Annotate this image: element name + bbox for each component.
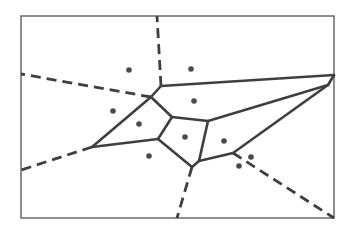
site-point bbox=[236, 163, 242, 169]
site-point bbox=[191, 98, 197, 104]
voronoi-edge bbox=[151, 86, 161, 97]
voronoi-edge bbox=[172, 117, 208, 121]
site-point bbox=[146, 153, 152, 159]
voronoi-edge bbox=[233, 85, 328, 153]
voronoi-ray bbox=[157, 16, 161, 86]
site-point bbox=[248, 154, 254, 160]
voronoi-ray bbox=[21, 74, 151, 97]
site-point bbox=[110, 108, 116, 114]
site-point bbox=[221, 138, 227, 144]
voronoi-diagram bbox=[0, 0, 362, 238]
voronoi-edge bbox=[192, 161, 199, 167]
site-point bbox=[182, 134, 188, 140]
voronoi-edge bbox=[158, 117, 172, 139]
voronoi-edge bbox=[199, 153, 233, 161]
site-point bbox=[136, 121, 142, 127]
voronoi-edge bbox=[151, 97, 172, 117]
voronoi-ray bbox=[177, 167, 192, 218]
voronoi-edge bbox=[208, 85, 328, 121]
site-point bbox=[126, 67, 132, 73]
voronoi-edges bbox=[92, 75, 334, 167]
site-point bbox=[188, 66, 194, 72]
voronoi-edge bbox=[92, 97, 151, 147]
voronoi-edge bbox=[158, 139, 192, 167]
voronoi-ray bbox=[233, 153, 334, 218]
voronoi-edge bbox=[199, 121, 208, 161]
voronoi-ray bbox=[21, 147, 92, 170]
voronoi-edge bbox=[161, 75, 334, 86]
